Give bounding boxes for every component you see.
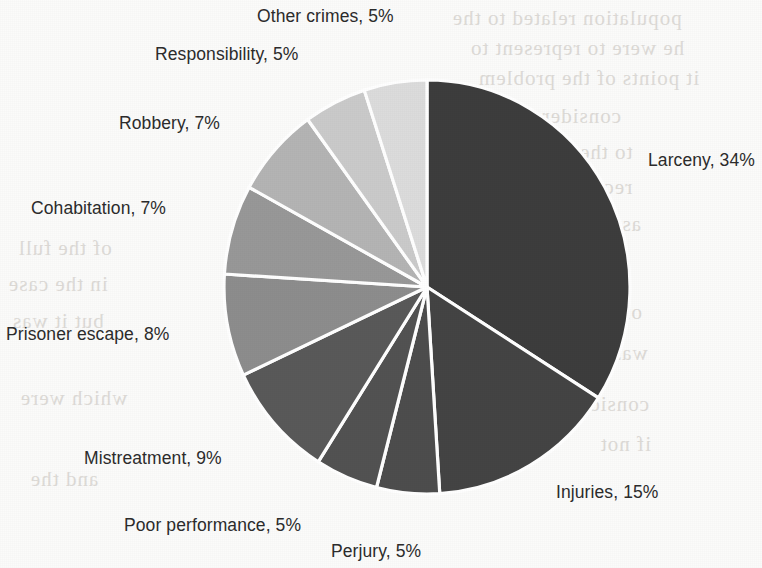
pie-slice-label: Injuries, 15%	[556, 482, 658, 503]
pie-slice-group: Larceny, 34%Injuries, 15%Perjury, 5%Poor…	[224, 80, 630, 494]
pie-slice-label: Robbery, 7%	[119, 113, 220, 134]
pie-slice-label: Perjury, 5%	[331, 541, 421, 562]
pie-slice-label: Prisoner escape, 8%	[6, 324, 169, 345]
pie-slice-label: Larceny, 34%	[648, 150, 755, 171]
pie-chart: Larceny, 34%Injuries, 15%Perjury, 5%Poor…	[0, 0, 762, 568]
pie-slice-label: Mistreatment, 9%	[84, 448, 222, 469]
pie-slice-label: Responsibility, 5%	[155, 44, 298, 65]
pie-chart-page: population related to thehe were to repr…	[0, 0, 762, 568]
pie-slice-label: Poor performance, 5%	[124, 515, 301, 536]
pie-slice-label: Other crimes, 5%	[257, 6, 394, 27]
pie-slice-label: Cohabitation, 7%	[31, 198, 166, 219]
